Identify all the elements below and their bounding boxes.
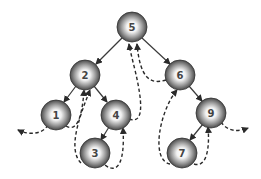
edge-2-1 (64, 86, 76, 102)
tree-diagram: 5 2 6 1 4 3 9 7 (0, 0, 261, 179)
node-label: 7 (179, 148, 186, 159)
trace-6-to-5 (137, 44, 166, 81)
node-label: 3 (92, 148, 99, 159)
node-label: 9 (208, 108, 215, 119)
edge-5-2 (96, 38, 122, 64)
node-label: 1 (53, 110, 60, 121)
edge-4-3 (101, 127, 109, 140)
node-2: 2 (70, 60, 100, 90)
node-label: 5 (129, 22, 136, 33)
tree-nodes: 5 2 6 1 4 3 9 7 (41, 12, 226, 168)
node-1: 1 (41, 100, 71, 130)
node-label: 2 (82, 70, 89, 81)
trace-9-out (221, 122, 248, 130)
node-6: 6 (165, 60, 195, 90)
edge-9-7 (190, 124, 203, 140)
node-7: 7 (167, 138, 197, 168)
node-label: 4 (113, 110, 120, 121)
node-3: 3 (80, 138, 110, 168)
node-label: 6 (177, 70, 184, 81)
node-9: 9 (196, 98, 226, 128)
edge-2-4 (94, 86, 107, 102)
edge-5-6 (142, 38, 170, 64)
node-4: 4 (101, 100, 131, 130)
node-5: 5 (117, 12, 147, 42)
edge-6-9 (189, 86, 202, 101)
trace-1-out (18, 125, 48, 133)
